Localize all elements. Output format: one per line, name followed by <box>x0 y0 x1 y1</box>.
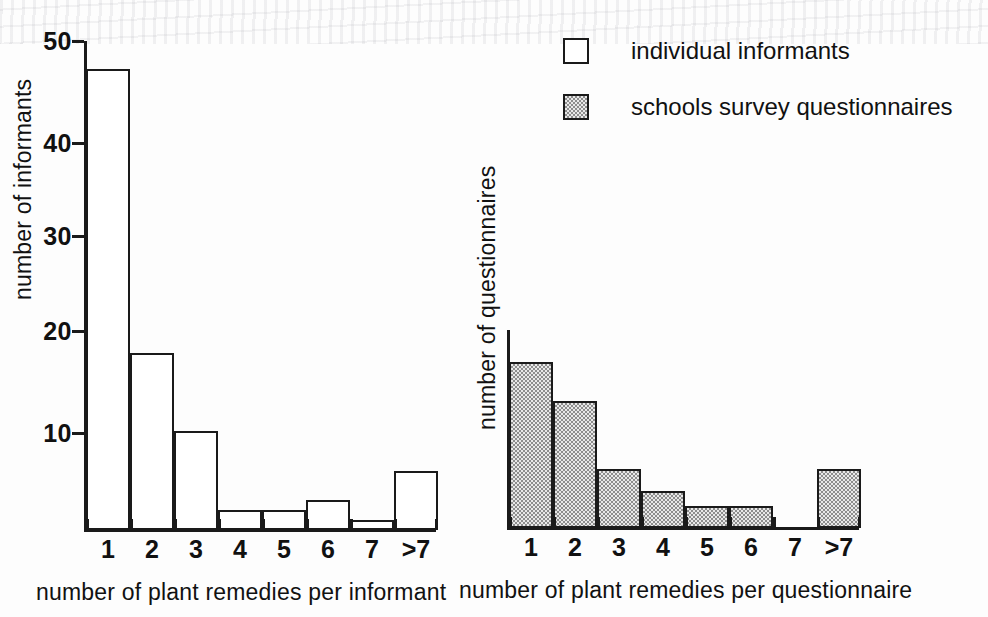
x-tick-label-6: 6 <box>306 537 350 562</box>
x-axis-tick-7 <box>394 519 397 530</box>
bar-4[interactable] <box>218 510 262 530</box>
x-axis-tick-2 <box>597 517 600 528</box>
x-axis-tick-3 <box>218 519 221 530</box>
x-axis-tick-0 <box>509 517 512 528</box>
x-tick-label-5: 5 <box>262 537 306 562</box>
x-tick-label-6: 6 <box>729 535 773 560</box>
y-axis-tick-50 <box>72 40 84 43</box>
x-axis-tick-1 <box>553 517 556 528</box>
x-axis-tick-2 <box>174 519 177 530</box>
x-axis-tick-6 <box>773 517 776 528</box>
x-tick-label-2: 2 <box>130 537 174 562</box>
x-tick-label-gt7: >7 <box>817 535 861 560</box>
x-tick-label-1: 1 <box>86 537 130 562</box>
x-tick-label-2: 2 <box>553 535 597 560</box>
y-tick-label-40: 40 <box>28 131 72 156</box>
x-tick-label-3: 3 <box>174 537 218 562</box>
bar-2[interactable] <box>130 353 174 530</box>
y-tick-label-50: 50 <box>28 29 72 54</box>
x-axis-tick-7 <box>817 517 820 528</box>
x-tick-label-4: 4 <box>641 535 685 560</box>
y-tick-label-20: 20 <box>28 319 72 344</box>
x-axis-tick-8 <box>435 519 438 530</box>
bar-5[interactable] <box>262 510 306 530</box>
bar-4[interactable] <box>641 491 685 528</box>
y-tick-label-10: 10 <box>28 421 72 446</box>
bar-6[interactable] <box>729 506 773 528</box>
bar-3[interactable] <box>597 469 641 528</box>
y-axis-tick-40 <box>72 142 84 145</box>
x-axis-title-informants: number of plant remedies per informant <box>36 581 446 604</box>
bar-3[interactable] <box>174 431 218 530</box>
y-axis-title-questionnaires: number of questionnaires <box>476 166 499 430</box>
x-tick-label-5: 5 <box>685 535 729 560</box>
x-tick-label-gt7: >7 <box>394 537 438 562</box>
bar-1[interactable] <box>509 362 553 528</box>
bar-1[interactable] <box>86 69 130 530</box>
bar-gt7[interactable] <box>817 469 861 528</box>
y-tick-label-30: 30 <box>28 224 72 249</box>
x-axis-tick-4 <box>262 519 265 530</box>
x-tick-label-3: 3 <box>597 535 641 560</box>
bar-gt7[interactable] <box>394 471 438 530</box>
y-axis-tick-10 <box>72 432 84 435</box>
x-tick-label-7: 7 <box>773 535 817 560</box>
x-axis-tick-3 <box>641 517 644 528</box>
x-axis-title-questionnaires: number of plant remedies per questionnai… <box>459 579 912 602</box>
chart-informants: number of informants 50 40 30 20 10 <box>0 0 470 617</box>
x-axis-tick-5 <box>729 517 732 528</box>
figure-two-histograms: individual informants schools survey que… <box>0 0 988 617</box>
y-axis-tick-30 <box>72 235 84 238</box>
y-axis-tick-20 <box>72 330 84 333</box>
bar-2[interactable] <box>553 401 597 528</box>
chart-questionnaires: number of questionnaires 1 2 3 4 5 6 7 >… <box>455 0 988 617</box>
x-tick-label-1: 1 <box>509 535 553 560</box>
x-axis-tick-1 <box>130 519 133 530</box>
x-axis-tick-4 <box>685 517 688 528</box>
x-axis-tick-8 <box>858 517 861 528</box>
bar-7[interactable] <box>350 520 394 530</box>
y-axis-title-informants: number of informants <box>12 79 35 300</box>
bar-6[interactable] <box>306 500 350 530</box>
x-tick-label-4: 4 <box>218 537 262 562</box>
x-axis-tick-6 <box>350 519 353 530</box>
x-tick-label-7: 7 <box>350 537 394 562</box>
x-axis-tick-0 <box>86 519 89 530</box>
bar-5[interactable] <box>685 506 729 528</box>
x-axis-tick-5 <box>306 519 309 530</box>
